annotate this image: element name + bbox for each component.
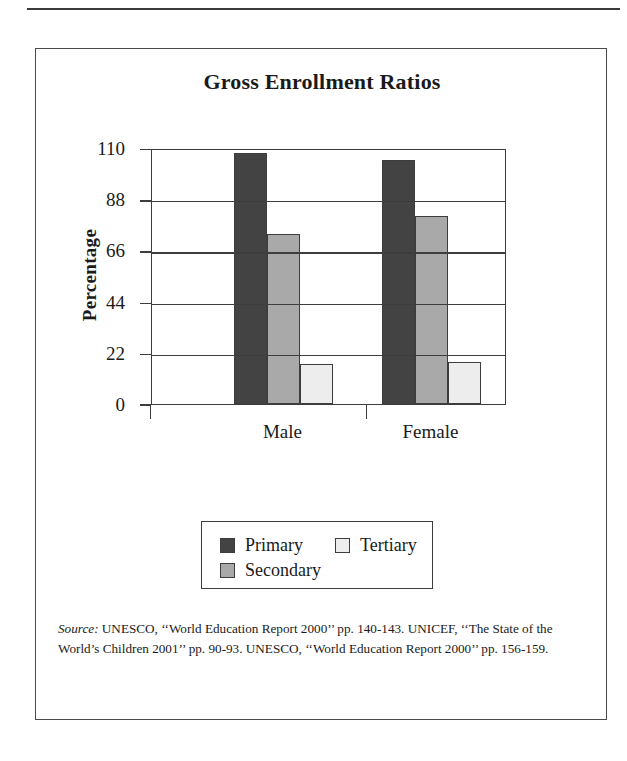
chart-legend: Primary Secondary Tertiary <box>201 521 433 589</box>
legend-label-primary: Primary <box>245 535 303 556</box>
source-note: Source: UNESCO, ‘‘World Education Report… <box>58 619 558 659</box>
gridline <box>152 355 505 356</box>
legend-label-tertiary: Tertiary <box>360 535 417 556</box>
bar-female-tertiary <box>448 362 481 404</box>
legend-item-secondary: Secondary <box>220 560 321 581</box>
source-note-label: Source: <box>58 621 99 636</box>
gridline <box>152 201 505 202</box>
x-axis-group-tick <box>366 405 367 419</box>
legend-swatch-tertiary-icon <box>335 538 350 553</box>
legend-item-tertiary: Tertiary <box>335 535 417 556</box>
bar-male-secondary <box>267 234 300 404</box>
y-axis-tick-label: 88 <box>36 189 125 211</box>
x-axis-label-male: Male <box>263 421 302 443</box>
legend-item-primary: Primary <box>220 535 303 556</box>
x-axis-label-female: Female <box>403 421 459 443</box>
figure-container: Gross Enrollment Ratios Percentage 02244… <box>35 48 607 720</box>
gridline <box>152 304 505 305</box>
y-axis-tick-mark <box>140 354 151 355</box>
bar-female-secondary <box>415 216 448 405</box>
legend-label-secondary: Secondary <box>245 560 321 581</box>
bar-male-tertiary <box>300 364 333 404</box>
legend-swatch-primary-icon <box>220 538 235 553</box>
gridline <box>152 252 505 253</box>
y-axis-tick-label: 22 <box>36 343 125 365</box>
y-axis-tick-mark <box>140 200 151 201</box>
source-note-text: UNESCO, ‘‘World Education Report 2000’’ … <box>58 621 553 656</box>
chart-area: Gross Enrollment Ratios Percentage 02244… <box>36 49 608 721</box>
bar-male-primary <box>234 153 267 404</box>
y-axis-tick-label: 0 <box>36 394 125 416</box>
plot-area <box>151 149 506 405</box>
bars-layer <box>152 150 505 404</box>
page-top-rule <box>27 8 620 10</box>
y-axis-tick-label: 66 <box>36 240 125 262</box>
y-axis-tick-mark <box>140 303 151 304</box>
chart-title: Gross Enrollment Ratios <box>36 69 608 95</box>
y-axis-tick-label: 44 <box>36 292 125 314</box>
y-axis-stub <box>150 405 151 419</box>
y-axis-tick-mark <box>140 405 151 406</box>
bar-female-primary <box>382 160 415 404</box>
y-axis-tick-mark <box>140 149 151 150</box>
legend-swatch-secondary-icon <box>220 563 235 578</box>
y-axis-tick-label: 110 <box>36 138 125 160</box>
y-axis-title: Percentage <box>79 195 101 355</box>
y-axis-tick-mark <box>140 251 151 252</box>
